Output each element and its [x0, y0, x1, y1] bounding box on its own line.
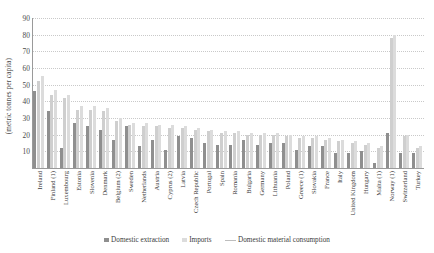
bar-domestic-material-consumption: [364, 145, 367, 168]
bar-domestic-extraction: [412, 153, 415, 168]
bar-domestic-extraction: [138, 146, 141, 168]
bar-group: [84, 18, 97, 168]
bar-imports: [328, 138, 331, 168]
bar-domestic-extraction: [73, 123, 76, 168]
x-axis-category-label: Finland (1): [48, 171, 55, 201]
bar-domestic-material-consumption: [220, 133, 223, 168]
x-axis-category-label: Czech Republic: [192, 171, 199, 213]
x-axis-category-label: Netherlands: [140, 171, 147, 203]
bar-imports: [132, 123, 135, 168]
bar-imports: [341, 140, 344, 168]
bar-group: [332, 18, 345, 168]
x-axis-category: Luxembourg: [58, 170, 71, 232]
bar-imports: [315, 136, 318, 168]
bar-group: [267, 18, 280, 168]
bar-domestic-extraction: [99, 130, 102, 168]
y-axis-title-text: (metric tonnes per capita): [5, 58, 13, 134]
x-axis-category-label: Cyprus (2): [166, 171, 173, 199]
bar-domestic-material-consumption: [63, 98, 66, 168]
bar-group: [411, 18, 424, 168]
legend-label: Domestic extraction: [111, 236, 169, 244]
x-axis-category: Belgium (2): [110, 170, 123, 232]
bar-imports: [171, 125, 174, 168]
bar-imports: [54, 90, 57, 168]
bar-domestic-material-consumption: [142, 126, 145, 168]
bar-domestic-material-consumption: [37, 81, 40, 168]
bar-imports: [41, 76, 44, 168]
bar-domestic-material-consumption: [403, 136, 406, 168]
x-axis-category: Greece (1): [293, 170, 306, 232]
bar-domestic-extraction: [203, 143, 206, 168]
bar-domestic-extraction: [269, 143, 272, 168]
bar-domestic-material-consumption: [194, 130, 197, 168]
x-axis-category: Norway (1): [385, 170, 398, 232]
bar-imports: [302, 136, 305, 168]
x-axis-category-label: Germany: [257, 171, 264, 196]
bar-domestic-extraction: [229, 145, 232, 168]
bar-imports: [289, 135, 292, 168]
x-axis-category: Sweden: [123, 170, 136, 232]
bar-domestic-extraction: [125, 126, 128, 168]
bar-imports: [197, 128, 200, 168]
bar-imports: [119, 118, 122, 168]
x-axis-category: United Kingdom: [346, 170, 359, 232]
bar-group: [215, 18, 228, 168]
bar-domestic-extraction: [177, 136, 180, 168]
bar-domestic-extraction: [112, 140, 115, 168]
bar-domestic-material-consumption: [390, 38, 393, 168]
bar-domestic-extraction: [295, 150, 298, 168]
bar-domestic-material-consumption: [102, 111, 105, 168]
bar-imports: [224, 131, 227, 168]
bar-group: [45, 18, 58, 168]
bar-domestic-material-consumption: [207, 131, 210, 168]
bar-group: [293, 18, 306, 168]
bar-domestic-material-consumption: [155, 126, 158, 168]
bar-imports: [145, 123, 148, 168]
legend-swatch-square: [182, 238, 187, 243]
bar-domestic-extraction: [242, 140, 245, 168]
x-axis-category: Estonia: [71, 170, 84, 232]
bar-group: [319, 18, 332, 168]
bar-domestic-material-consumption: [246, 135, 249, 168]
legend-item: Imports: [182, 236, 211, 244]
x-axis-category-label: Switzerland: [401, 171, 408, 203]
chart-container: (metric tonnes per capita) 1020304050607…: [0, 0, 434, 253]
x-axis-category-label: Slovakia: [309, 171, 316, 194]
bar-domestic-material-consumption: [233, 133, 236, 168]
x-axis-category-label: Bulgaria: [244, 171, 251, 194]
bar-group: [176, 18, 189, 168]
plot-area: 102030405060708090: [32, 18, 424, 168]
bar-domestic-extraction: [321, 146, 324, 168]
x-axis-category-label: Estonia: [74, 171, 81, 191]
bar-domestic-extraction: [282, 143, 285, 168]
bar-group: [372, 18, 385, 168]
x-axis-category: Bulgaria: [241, 170, 254, 232]
x-axis-category-label: Sweden: [126, 171, 133, 192]
bar-group: [150, 18, 163, 168]
x-axis-category: Portugal: [202, 170, 215, 232]
bar-domestic-extraction: [308, 146, 311, 168]
legend-label: Imports: [189, 236, 211, 244]
bar-domestic-extraction: [151, 140, 154, 168]
x-axis-category: Romania: [228, 170, 241, 232]
x-axis-category-label: Romania: [231, 171, 238, 195]
bar-domestic-extraction: [60, 148, 63, 168]
x-axis-category-label: Slovenia: [87, 171, 94, 194]
x-axis-category-label: Turkey: [414, 171, 421, 190]
bar-imports: [276, 133, 279, 168]
bar-group: [254, 18, 267, 168]
x-axis-category-label: Italy: [335, 171, 342, 183]
bar-domestic-material-consumption: [324, 140, 327, 168]
bar-group: [189, 18, 202, 168]
bar-imports: [419, 146, 422, 168]
y-axis-title: (metric tonnes per capita): [2, 36, 16, 156]
bar-group: [58, 18, 71, 168]
bar-domestic-extraction: [347, 153, 350, 168]
bar-domestic-material-consumption: [115, 121, 118, 168]
bar-imports: [210, 130, 213, 168]
bar-domestic-extraction: [373, 163, 376, 168]
bar-group: [110, 18, 123, 168]
bar-domestic-extraction: [399, 153, 402, 168]
bar-domestic-material-consumption: [285, 136, 288, 168]
x-axis-category-label: Hungary: [362, 171, 369, 194]
